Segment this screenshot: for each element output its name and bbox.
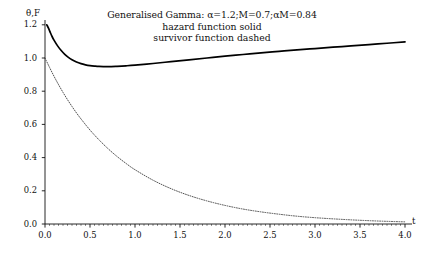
y-axis-ticks (42, 25, 45, 224)
axis-lines (45, 20, 412, 224)
survivor-function-curve (45, 58, 405, 222)
hazard-function-curve (47, 25, 405, 67)
chart-figure: Generalised Gamma: α=1.2;M=0.7;αM=0.84 h… (0, 0, 425, 254)
plot-area (0, 0, 425, 254)
